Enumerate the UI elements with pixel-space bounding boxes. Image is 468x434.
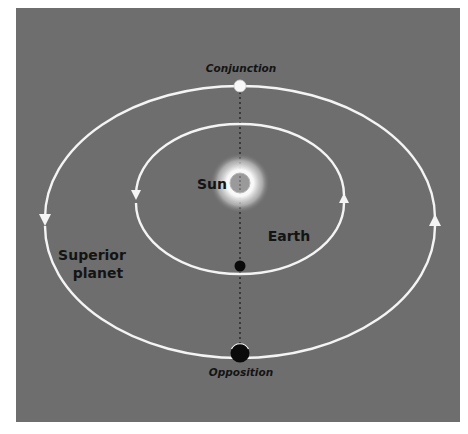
outer-orbit-arrow-left-icon [39,214,51,226]
earth-orbit-arrow-right-icon [339,193,349,203]
orbit-diagram: Conjunction Opposition Sun Earth Superio… [0,0,468,434]
earth-orbit-arrow-left-icon [131,190,141,200]
planet-conjunction-icon [234,80,246,92]
superior-planet-label-line1: Superior [58,247,126,263]
earth-icon [235,261,246,272]
outer-orbit-arrow-right-icon [429,214,441,226]
conjunction-label: Conjunction [206,62,276,74]
earth-label: Earth [268,228,311,244]
superior-planet-label-line2: planet [73,265,124,281]
opposition-label: Opposition [209,366,273,378]
sun-label: Sun [197,176,227,192]
